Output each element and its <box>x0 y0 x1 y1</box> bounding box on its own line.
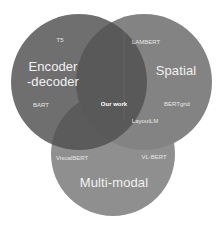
venn-circles <box>0 0 222 227</box>
intersection-layoutlm: LayoutLM <box>132 118 158 124</box>
member-bart: BART <box>33 102 49 108</box>
member-t5: T5 <box>56 37 63 43</box>
venn-diagram: Encoder -decoder Spatial Multi-modal T5 … <box>0 0 222 227</box>
member-visualbert: VisualBERT <box>56 155 88 161</box>
member-vlbert: VL-BERT <box>141 154 166 160</box>
multi-modal-label: Multi-modal <box>80 176 148 189</box>
encoder-label-line1: Encoder <box>28 59 77 74</box>
intersection-our-work: Our work <box>101 101 127 107</box>
member-bertgrid: BERTgrid <box>164 101 190 107</box>
member-lambert: LAMBERT <box>132 39 160 45</box>
encoder-decoder-label: Encoder -decoder <box>27 59 79 89</box>
encoder-label-line2: -decoder <box>27 74 79 89</box>
spatial-label: Spatial <box>156 64 196 77</box>
